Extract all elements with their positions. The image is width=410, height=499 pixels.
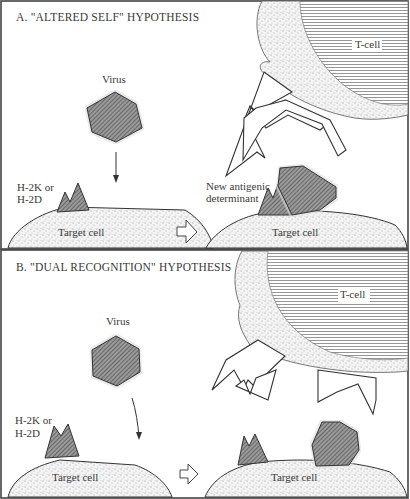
- diagram-canvas: T-cell A. "ALTERED SELF" HYPOTHESIS Viru…: [0, 0, 410, 499]
- virus-label-a: Virus: [102, 73, 126, 85]
- target-label-b-left: Target cell: [52, 471, 98, 483]
- tcell-label-b: T-cell: [340, 288, 365, 300]
- target-label-b-right: Target cell: [271, 471, 317, 483]
- new-det-label-a-line2: determinant: [206, 192, 259, 204]
- panel-b-title: B. "DUAL RECOGNITION" HYPOTHESIS: [16, 261, 231, 273]
- new-det-label-a-line1: New antigenic: [206, 180, 270, 192]
- mhc-label-b-line2: H-2D: [15, 427, 40, 439]
- panel-a-title: A. "ALTERED SELF" HYPOTHESIS: [16, 11, 199, 23]
- mhc-label-a-line1: H-2K or: [17, 181, 54, 193]
- panel-a: T-cell A. "ALTERED SELF" HYPOTHESIS Viru…: [1, 1, 408, 249]
- virus-b-bound: [312, 422, 359, 466]
- virus-label-b: Virus: [106, 315, 130, 327]
- panel-b: T-cell B. "DUAL RECOGNITION" HYPOTHESIS …: [1, 250, 408, 498]
- target-label-a-left: Target cell: [58, 226, 104, 238]
- mhc-label-b-line1: H-2K or: [15, 414, 52, 426]
- target-label-a-right: Target cell: [272, 226, 318, 238]
- mhc-label-a-line2: H-2D: [17, 193, 42, 205]
- tcell-label-a: T-cell: [355, 38, 380, 50]
